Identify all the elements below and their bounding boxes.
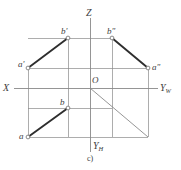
projection-drawing-canvas: [0, 0, 181, 170]
label-b-prime-text: b': [61, 26, 67, 36]
label-b-plain: b: [60, 98, 65, 107]
label-a-prime-text: a': [18, 59, 24, 69]
yh-axis-label-subscript: H: [99, 145, 104, 152]
yh-axis-diagonal: [90, 88, 148, 137]
segment-a-prime-b-prime: [28, 38, 68, 68]
origin-label-text: O: [92, 75, 99, 85]
label-b-plain-text: b: [60, 97, 65, 107]
label-a-plain-text: a: [19, 131, 24, 141]
figure-caption-text: c): [87, 154, 93, 163]
point-marker-a-prime: [26, 66, 30, 70]
label-a-double-prime: a": [152, 63, 160, 72]
label-b-prime: b': [61, 27, 67, 36]
x-axis-label: X: [3, 83, 9, 93]
label-a-prime: a': [18, 60, 24, 69]
yh-axis-label: YH: [93, 141, 103, 152]
label-a-plain: a: [19, 132, 24, 141]
point-marker-b-double-prime: [110, 36, 114, 40]
origin-label: O: [92, 76, 99, 85]
point-marker-a-double-prime: [146, 66, 150, 70]
projection-figure: Z X YW YH O a' b' b" a" b a c): [0, 0, 181, 170]
z-axis-label-text: Z: [86, 7, 92, 18]
yw-axis-label-subscript: W: [166, 87, 171, 94]
point-marker-b-prime: [66, 36, 70, 40]
label-a-double-prime-text: a": [152, 62, 160, 72]
x-axis-label-text: X: [3, 82, 9, 93]
segment-b-double-prime-a-double-prime: [112, 38, 148, 68]
z-axis-label: Z: [86, 8, 92, 18]
point-marker-b-plain: [66, 106, 70, 110]
label-b-double-prime-text: b": [107, 26, 115, 36]
label-b-double-prime: b": [107, 27, 115, 36]
figure-caption: c): [87, 155, 93, 163]
point-marker-a-plain: [26, 135, 30, 139]
yw-axis-label: YW: [160, 83, 171, 94]
segment-a-b-horizontal-projection: [28, 108, 68, 137]
